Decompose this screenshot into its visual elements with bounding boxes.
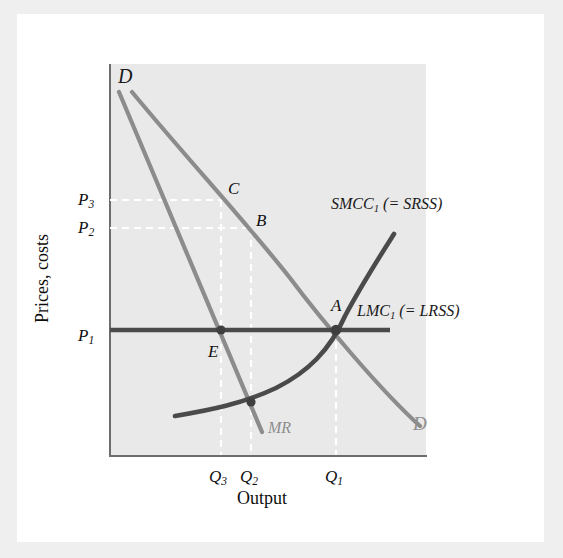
point-marker-e <box>216 325 225 334</box>
figure-root: Prices, costs P3 P2 P1 Q3 Q2 Q1 Output D… <box>0 0 563 558</box>
x-tick-label-q1: Q1 <box>325 468 343 485</box>
long-run-marginal-cost-label: LMC1 (= LRSS) <box>357 303 459 319</box>
demand-curve-label-bottom: D <box>413 414 427 433</box>
x-axis-title: Output <box>237 489 287 507</box>
x-tick-label-q3: Q3 <box>209 468 227 485</box>
y-tick-label-p1: P1 <box>78 327 94 344</box>
chart-curves <box>0 0 563 558</box>
marginal-revenue-curve-label: MR <box>268 420 291 436</box>
y-tick-label-p2: P2 <box>78 219 94 236</box>
demand-curve-label-top: D <box>118 66 132 86</box>
point-label-a: A <box>331 297 341 314</box>
y-axis-title: Prices, costs <box>32 209 53 349</box>
short-run-marginal-cost-label: SMCC1 (= SRSS) <box>331 196 442 212</box>
point-label-b: B <box>256 212 266 229</box>
x-tick-label-q2: Q2 <box>240 468 258 485</box>
point-marker-mr-smcc <box>246 397 255 406</box>
marginal-revenue-curve <box>119 92 262 432</box>
point-label-e: E <box>208 343 218 360</box>
point-label-c: C <box>228 180 239 197</box>
y-tick-label-p3: P3 <box>78 191 94 208</box>
short-run-marginal-cost-curve <box>175 234 394 416</box>
point-marker-a <box>331 325 341 335</box>
